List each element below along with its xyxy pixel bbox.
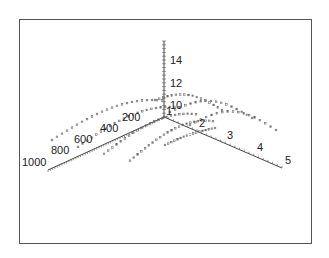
- data-point: [107, 150, 109, 152]
- data-point: [111, 107, 113, 109]
- data-point: [211, 114, 213, 116]
- data-point: [246, 114, 248, 116]
- data-point: [275, 129, 277, 131]
- data-point: [141, 110, 143, 112]
- data-point: [217, 107, 219, 109]
- data-point: [226, 104, 228, 106]
- data-point: [156, 139, 158, 141]
- data-point: [154, 99, 156, 101]
- data-point: [195, 121, 197, 123]
- scatter-3d-plot: 14 12 10 200 400 600 800 1000 1 2 3 4 5: [0, 0, 329, 258]
- data-point: [178, 113, 180, 115]
- data-point: [56, 136, 58, 138]
- data-point: [76, 124, 78, 126]
- left-tick-label: 1000: [22, 156, 46, 168]
- data-point: [151, 108, 153, 110]
- data-point: [211, 128, 213, 130]
- data-point: [185, 105, 187, 107]
- data-point: [158, 98, 160, 100]
- data-point: [179, 94, 181, 96]
- right-tick-label: 1: [166, 105, 172, 117]
- data-point: [120, 141, 122, 143]
- data-point: [177, 139, 179, 141]
- data-point: [174, 128, 176, 130]
- data-point: [103, 153, 105, 155]
- data-point: [188, 94, 190, 96]
- data-point: [151, 99, 153, 101]
- data-point: [202, 130, 204, 132]
- data-point: [191, 113, 193, 115]
- data-point: [77, 146, 79, 148]
- data-point: [131, 101, 133, 103]
- data-point: [196, 96, 198, 98]
- data-point: [221, 109, 223, 111]
- data-point: [163, 134, 165, 136]
- data-point: [91, 116, 93, 118]
- right-tick-label: 3: [227, 129, 233, 141]
- data-point: [189, 124, 191, 126]
- data-point: [133, 157, 135, 159]
- data-point: [160, 107, 162, 109]
- data-point: [159, 136, 161, 138]
- data-point: [167, 132, 169, 134]
- data-point: [195, 101, 197, 103]
- data-point: [189, 134, 191, 136]
- right-tick-label: 2: [199, 117, 205, 129]
- data-point: [216, 112, 218, 114]
- data-point: [200, 101, 202, 103]
- data-point: [126, 102, 128, 104]
- data-point: [162, 117, 164, 119]
- data-point: [259, 119, 261, 121]
- data-point: [128, 135, 130, 137]
- data-point: [186, 135, 188, 137]
- data-point: [199, 131, 201, 133]
- data-point: [190, 122, 192, 124]
- data-point: [137, 154, 139, 156]
- data-point: [164, 144, 166, 146]
- data-point: [221, 111, 223, 113]
- data-point: [167, 96, 169, 98]
- data-point: [146, 99, 148, 101]
- data-point: [81, 121, 83, 123]
- data-point: [141, 151, 143, 153]
- right-tick-label: 5: [285, 154, 291, 166]
- data-point: [161, 100, 163, 102]
- data-point: [137, 129, 139, 131]
- data-point: [116, 105, 118, 107]
- data-point: [183, 113, 185, 115]
- data-point: [208, 120, 210, 122]
- data-point: [210, 100, 212, 102]
- data-point: [220, 102, 222, 104]
- data-point: [132, 132, 134, 134]
- data-point: [174, 140, 176, 142]
- left-tick-label: 800: [51, 144, 69, 156]
- data-point: [171, 95, 173, 97]
- data-point: [184, 94, 186, 96]
- data-point: [214, 127, 216, 129]
- data-point: [86, 118, 88, 120]
- data-point: [106, 109, 108, 111]
- left-tick-label: 400: [100, 122, 118, 134]
- data-point: [124, 138, 126, 140]
- data-point: [238, 111, 240, 113]
- data-point: [148, 145, 150, 147]
- data-point: [121, 104, 123, 106]
- data-point: [270, 126, 272, 128]
- data-point: [174, 114, 176, 116]
- data-point: [187, 113, 189, 115]
- data-point: [71, 127, 73, 129]
- data-point: [171, 129, 173, 131]
- data-point: [61, 133, 63, 135]
- data-point: [141, 100, 143, 102]
- data-point: [96, 113, 98, 115]
- data-point: [152, 142, 154, 144]
- data-point: [195, 132, 197, 134]
- data-point: [205, 116, 207, 118]
- data-point: [200, 98, 202, 100]
- vertical-tick-label: 14: [170, 54, 182, 66]
- data-point: [163, 97, 165, 99]
- data-point: [175, 94, 177, 96]
- data-point: [112, 147, 114, 149]
- data-point: [232, 111, 234, 113]
- left-tick-label: 600: [74, 133, 92, 145]
